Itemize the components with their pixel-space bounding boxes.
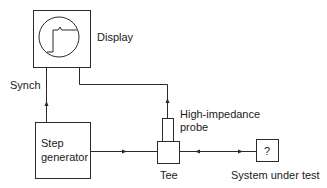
arrow-up-icon: [45, 101, 49, 106]
tee-box: [158, 142, 180, 164]
display-box: [34, 11, 91, 68]
probe-box: [163, 119, 174, 142]
display-screen-icon: [39, 17, 79, 57]
step-generator-label-line2: generator: [41, 150, 88, 164]
arrow-right-icon: [122, 150, 127, 154]
synch-label: Synch: [10, 79, 41, 91]
probe-label-line1: High-impedance: [180, 108, 260, 120]
arrow-up-icon: [166, 98, 170, 103]
tee-label: Tee: [160, 169, 178, 181]
step-generator-label-line1: Step: [41, 136, 64, 150]
arrow-left-icon: [195, 150, 200, 154]
arrow-right-icon: [238, 150, 243, 154]
probe-to-display-line: [80, 67, 168, 118]
display-label: Display: [97, 31, 133, 43]
step-waveform-icon: [47, 27, 77, 52]
system-under-test-label: System under test: [231, 169, 320, 181]
system-under-test-symbol: ?: [264, 145, 270, 157]
probe-label-line2: probe: [180, 121, 208, 133]
